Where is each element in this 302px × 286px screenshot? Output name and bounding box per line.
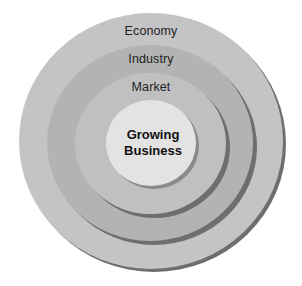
industry-label: Industry	[0, 52, 302, 66]
economy-label: Economy	[0, 24, 302, 38]
market-label: Market	[0, 80, 302, 94]
center-label-line1: Growing	[107, 127, 199, 143]
center-label: Growing Business	[107, 127, 199, 159]
center-label-line2: Business	[107, 143, 199, 159]
